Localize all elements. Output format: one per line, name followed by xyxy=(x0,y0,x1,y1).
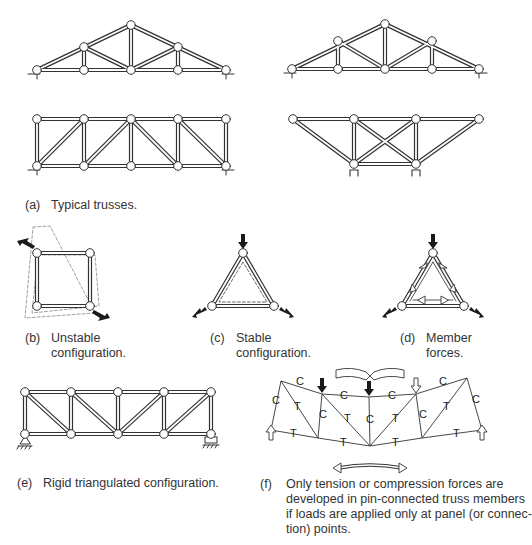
tension-compression-diagram: C C C C C C C C C T T T T T T T T xyxy=(266,368,487,473)
caption-text: if loads are applied only at panel (or c… xyxy=(286,507,532,522)
load-arrow-icon xyxy=(17,238,35,249)
label-c: C xyxy=(419,408,427,420)
roof-truss-left xyxy=(28,21,234,79)
label-c: C xyxy=(319,408,327,420)
label-c: C xyxy=(296,375,304,387)
caption-b: (b)Unstableconfiguration. xyxy=(25,331,126,361)
unstable-square-diagram xyxy=(17,226,110,321)
caption-text: forces. xyxy=(426,346,472,361)
caption-tag: (a) xyxy=(25,198,51,213)
label-t: T xyxy=(443,400,450,412)
label-c: C xyxy=(439,375,447,387)
caption-c: (c)Stableconfiguration. xyxy=(210,331,311,361)
label-t: T xyxy=(290,427,297,439)
rigid-truss-diagram xyxy=(17,388,219,449)
load-arrow-icon xyxy=(92,310,110,321)
label-t: T xyxy=(453,427,460,439)
caption-tag: (d) xyxy=(400,331,426,346)
label-t: T xyxy=(294,400,301,412)
label-t: T xyxy=(392,436,399,448)
caption-text: Stable xyxy=(236,331,311,346)
label-t: T xyxy=(344,412,351,424)
caption-tag: (e) xyxy=(17,476,43,491)
caption-text: Rigid triangulated configuration. xyxy=(43,476,219,491)
caption-tag: (f) xyxy=(260,477,286,492)
caption-text: Typical trusses. xyxy=(51,198,137,213)
member-forces-diagram xyxy=(382,234,484,318)
caption-tag: (c) xyxy=(210,331,236,346)
caption-text: Unstable xyxy=(51,331,126,346)
caption-a: (a)Typical trusses. xyxy=(25,198,137,213)
caption-e: (e)Rigid triangulated configuration. xyxy=(17,476,219,491)
caption-tag: (b) xyxy=(25,331,51,346)
label-c: C xyxy=(340,389,348,401)
roof-truss-right xyxy=(284,20,487,78)
label-c: C xyxy=(272,394,280,406)
caption-d: (d)Memberforces. xyxy=(400,331,472,361)
caption-f: (f)Only tension or compression forces ar… xyxy=(260,477,532,537)
flat-truss-left xyxy=(28,115,234,175)
label-t: T xyxy=(340,436,347,448)
caption-text: developed in pin-connected truss members xyxy=(286,492,532,507)
cantilever-truss-right xyxy=(289,115,484,176)
label-c: C xyxy=(472,393,480,405)
caption-text: configuration. xyxy=(51,346,126,361)
label-t: T xyxy=(392,412,399,424)
label-c: C xyxy=(366,413,374,425)
label-c: C xyxy=(388,389,396,401)
caption-text: tion) points. xyxy=(286,522,532,537)
caption-text: configuration. xyxy=(236,346,311,361)
stable-triangle-diagram xyxy=(192,234,294,318)
caption-text: Only tension or compression forces are xyxy=(286,477,532,492)
caption-text: Member xyxy=(426,331,472,346)
